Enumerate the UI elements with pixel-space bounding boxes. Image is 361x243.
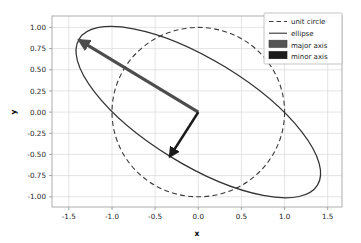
- y-tick-label: 0.75: [30, 44, 46, 53]
- y-tick-label: -0.25: [27, 129, 46, 138]
- y-tick-label: 0.50: [30, 65, 46, 74]
- x-axis-label: x: [195, 229, 200, 238]
- x-tick-label: 0.5: [236, 212, 247, 221]
- legend-marker-major-axis: [269, 40, 287, 47]
- legend-label-ellipse: ellipse: [291, 30, 314, 38]
- y-tick-label: -1.00: [27, 192, 46, 201]
- y-tick-label: 0.25: [30, 87, 46, 96]
- x-tick-label: -1.0: [105, 212, 119, 221]
- x-tick-label: 1.0: [279, 212, 291, 221]
- x-tick-label: -0.5: [148, 212, 162, 221]
- y-tick-label: -0.50: [27, 150, 46, 159]
- x-tick-label: -1.5: [62, 212, 76, 221]
- legend: unit circle ellipse major axis minor axi…: [264, 13, 342, 64]
- x-tick-label: 1.5: [322, 212, 333, 221]
- legend-label-major-axis: major axis: [291, 42, 328, 50]
- y-tick-labels: 1.00 0.75 0.50 0.25 0.00 -0.25 -0.50 -0.…: [27, 23, 46, 201]
- x-tick-label: 0.0: [193, 212, 205, 221]
- legend-label-minor-axis: minor axis: [291, 53, 328, 61]
- y-tick-label: 0.00: [30, 108, 46, 117]
- chart-plot: -1.5 -1.0 -0.5 0.0 0.5 1.0 1.5 1.00 0.75…: [0, 0, 361, 243]
- legend-label-unit-circle: unit circle: [291, 18, 325, 26]
- y-axis-label: y: [9, 109, 18, 114]
- legend-marker-minor-axis: [269, 52, 287, 59]
- y-tick-label: 1.00: [30, 23, 46, 32]
- figure-canvas: -1.5 -1.0 -0.5 0.0 0.5 1.0 1.5 1.00 0.75…: [0, 0, 361, 243]
- y-tick-label: -0.75: [27, 171, 46, 180]
